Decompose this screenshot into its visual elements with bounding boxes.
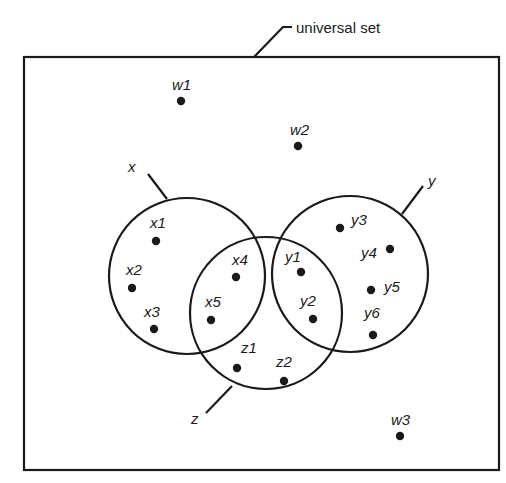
element-z1: z1	[233, 339, 257, 372]
element-w2: w2	[290, 121, 310, 150]
set-x-label: x	[127, 158, 136, 175]
element-label: y3	[350, 211, 368, 228]
set-z-label: z	[190, 410, 199, 427]
element-y4: y4	[360, 244, 394, 261]
element-label: x5	[204, 293, 222, 310]
element-label: y6	[363, 304, 381, 321]
element-label: w2	[290, 121, 310, 138]
element-dot	[297, 268, 305, 276]
element-dot	[309, 315, 317, 323]
element-dot	[367, 286, 375, 294]
element-w1: w1	[172, 76, 191, 105]
element-label: y2	[299, 292, 317, 309]
element-dot	[280, 377, 288, 385]
element-label: x1	[149, 214, 166, 231]
element-dot	[177, 97, 185, 105]
elements: w1w2w3x1x2x3x4x5y1y2y3y4y5y6z1z2	[125, 76, 411, 440]
element-label: x4	[231, 251, 248, 268]
set-x-leader-line	[148, 174, 167, 199]
element-x3: x3	[143, 303, 161, 333]
element-x1: x1	[149, 214, 166, 245]
element-y2: y2	[299, 292, 317, 323]
element-dot	[150, 325, 158, 333]
element-dot	[152, 237, 160, 245]
set-z-circle	[190, 237, 342, 389]
venn-diagram-canvas: universal set xyz w1w2w3x1x2x3x4x5y1y2y3…	[0, 0, 506, 483]
set-y-label: y	[427, 172, 437, 189]
element-dot	[336, 224, 344, 232]
element-label: w3	[391, 411, 411, 428]
element-y6: y6	[363, 304, 381, 339]
universal-set-callout-line	[254, 27, 292, 57]
element-dot	[128, 284, 136, 292]
element-label: w1	[172, 76, 191, 93]
element-label: x3	[143, 303, 161, 320]
element-label: x2	[125, 261, 143, 278]
element-x2: x2	[125, 261, 143, 292]
element-label: y5	[383, 278, 401, 295]
element-dot	[294, 142, 302, 150]
element-dot	[232, 273, 240, 281]
element-w3: w3	[391, 411, 411, 440]
set-z-leader-line	[206, 386, 232, 413]
set-y-circle	[272, 196, 428, 352]
element-label: y1	[284, 248, 301, 265]
set-y-leader-line	[402, 186, 423, 214]
element-dot	[369, 331, 377, 339]
element-z2: z2	[275, 353, 293, 385]
set-z: z	[190, 237, 342, 427]
element-dot	[386, 245, 394, 253]
element-dot	[207, 316, 215, 324]
venn-diagram: universal set xyz w1w2w3x1x2x3x4x5y1y2y3…	[0, 0, 506, 483]
element-label: z1	[240, 339, 257, 356]
element-label: y4	[360, 244, 377, 261]
universal-set: universal set	[24, 19, 499, 470]
element-dot	[233, 364, 241, 372]
element-y3: y3	[336, 211, 368, 232]
element-label: z2	[275, 353, 293, 370]
element-y5: y5	[367, 278, 401, 295]
element-y1: y1	[284, 248, 305, 276]
universal-set-label: universal set	[296, 19, 381, 36]
element-dot	[396, 432, 404, 440]
element-x4: x4	[231, 251, 248, 281]
element-x5: x5	[204, 293, 222, 324]
